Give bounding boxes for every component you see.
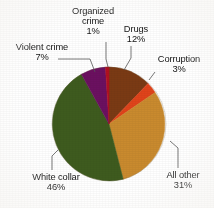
slice-label-organized-crime: Organized crime 1%: [64, 6, 122, 36]
leader-line-organized-crime: [106, 42, 108, 67]
slice-label-all-other-name: All other: [156, 170, 210, 180]
slice-label-violent-crime-name: Violent crime: [6, 42, 78, 52]
slice-label-drugs-name: Drugs: [118, 24, 154, 34]
slice-label-all-other: All other 31%: [156, 170, 210, 190]
leader-line-white-collar: [52, 150, 58, 170]
slice-label-drugs: Drugs 12%: [118, 24, 154, 44]
pie-chart-figure: Organized crime 1% Drugs 12% Corruption …: [0, 0, 214, 208]
slice-value-all-other: 31%: [156, 180, 210, 190]
slice-label-organized-crime-line1: Organized: [64, 6, 122, 16]
slice-value-organized-crime: 1%: [64, 26, 122, 36]
leader-line-drugs: [124, 46, 131, 70]
slice-label-white-collar-name: White collar: [18, 172, 94, 182]
slice-value-white-collar: 46%: [18, 182, 94, 192]
leader-line-all-other: [170, 141, 178, 168]
slice-value-violent-crime: 7%: [6, 52, 78, 62]
slice-label-corruption-name: Corruption: [148, 54, 210, 64]
slice-label-organized-crime-line2: crime: [64, 16, 122, 26]
slice-value-corruption: 3%: [148, 64, 210, 74]
slice-label-corruption: Corruption 3%: [148, 54, 210, 74]
slice-label-white-collar: White collar 46%: [18, 172, 94, 192]
slice-label-violent-crime: Violent crime 7%: [6, 42, 78, 62]
slice-value-drugs: 12%: [118, 34, 154, 44]
